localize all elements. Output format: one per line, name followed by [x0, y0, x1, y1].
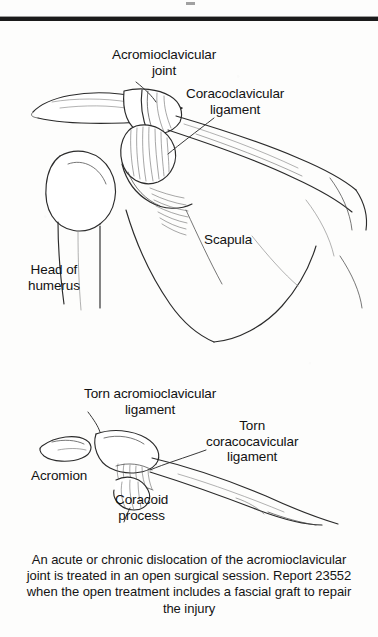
label-scapula: Scapula	[204, 232, 252, 248]
figure-page: Acromioclavicular joint Coracoclavicular…	[0, 0, 378, 637]
figure-caption: An acute or chronic dislocation of the a…	[22, 552, 356, 617]
top-divider-rule	[0, 17, 378, 21]
label-head-of-humerus: Head of humerus	[28, 262, 80, 293]
label-coracoid-process: Coracoid process	[115, 492, 168, 523]
label-coracoclavicular-ligament: Coracoclavicular ligament	[186, 86, 284, 117]
label-acromioclavicular-joint: Acromioclavicular joint	[112, 47, 216, 78]
label-torn-acromioclavicular-ligament: Torn acromioclavicular ligament	[84, 386, 216, 417]
label-torn-coracocavicular-ligament: Torn coracocavicular ligament	[206, 418, 298, 465]
scan-artifact-mark	[186, 2, 195, 5]
label-acromion: Acromion	[31, 468, 87, 484]
